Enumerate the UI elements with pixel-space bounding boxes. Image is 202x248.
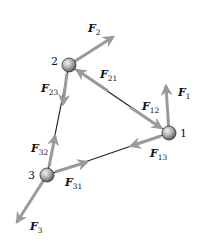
arrow-F32 [49, 136, 55, 167]
label-F31: F31 [64, 176, 82, 191]
arrow-F13 [131, 136, 161, 146]
particle-1 [162, 126, 176, 140]
particle-3 [40, 168, 54, 182]
arrow-F23 [63, 73, 67, 104]
label-F3: F3 [29, 220, 43, 235]
label-F32: F32 [30, 142, 49, 157]
particle-2 [62, 58, 76, 72]
label-F23: F23 [40, 82, 59, 97]
label-F21: F21 [99, 68, 117, 83]
label-F2: F2 [87, 22, 101, 37]
arrow-F3 [17, 175, 47, 222]
label-F1: F1 [177, 86, 191, 101]
force-diagram: 1 2 3 F1 F2 F3 F12 F21 F13 F31 F23 F32 [0, 0, 202, 248]
arrow-F31 [55, 162, 87, 172]
label-F13: F13 [149, 147, 168, 162]
arrow-F2 [69, 37, 113, 65]
particle-label-1: 1 [180, 127, 187, 140]
label-F12: F12 [141, 100, 160, 115]
particle-label-3: 3 [28, 169, 35, 182]
particle-label-2: 2 [51, 55, 58, 68]
